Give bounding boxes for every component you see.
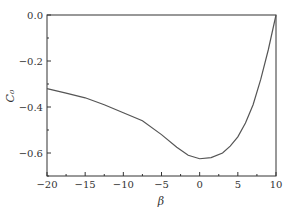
x-tick-label: 5 [235,179,241,190]
y-tick-labels: 0.0−0.2−0.4−0.6 [19,10,43,159]
x-tick-labels: −20−15−10−50510 [36,179,282,190]
x-tick-label: 10 [270,179,283,190]
axis-ticks [47,15,276,176]
x-tick-label: −10 [113,179,134,190]
y-tick-label: −0.6 [19,148,43,159]
y-tick-label: 0.0 [27,10,43,21]
y-tick-label: −0.2 [19,56,43,67]
data-line-c0 [47,15,276,159]
x-tick-label: −20 [36,179,57,190]
line-chart: −20−15−10−50510 0.0−0.2−0.4−0.6 β C₀ [0,0,292,212]
y-tick-label: −0.4 [19,102,43,113]
y-axis-label: C₀ [4,89,17,102]
plot-frame [47,15,276,176]
x-tick-label: −15 [75,179,96,190]
x-axis-label: β [157,195,164,208]
x-tick-label: −5 [154,179,169,190]
x-tick-label: 0 [196,179,202,190]
